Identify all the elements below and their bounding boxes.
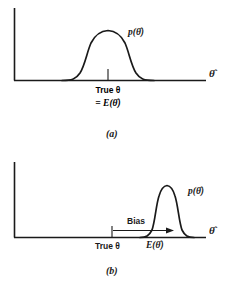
panel-a-density-label: p(θ̂) [128,28,144,38]
panel-b-bias-label: Bias [127,217,145,226]
panel-a-true-theta-label: True θ [78,85,138,95]
panel-b-x-axis-label: θ̂ [209,225,215,236]
panel-a-caption: (a) [106,128,118,139]
panel-b-caption: (b) [106,265,118,276]
estimator-bias-figure: p(θ̂) θ̂ True θ = E(θ̂) (a) p(θ̂) [0,0,229,286]
panel-a-unbiased-estimator: p(θ̂) θ̂ True θ = E(θ̂) (a) [0,0,229,143]
panel-a-plot [0,0,229,143]
panel-a-tick-labels: True θ = E(θ̂) [78,85,138,108]
panel-b-biased-estimator: p(θ̂) Bias θ̂ True θ E(θ̂) (b) [0,143,229,286]
panel-b-expectation-label: E(θ̂) [146,241,164,251]
panel-b-true-theta-label: True θ [95,242,120,251]
panel-b-density-label: p(θ̂) [188,187,204,197]
panel-a-x-axis-label: θ̂ [209,68,215,79]
panel-a-expectation-label: = E(θ̂) [78,98,138,108]
panel-b-bias-arrow-head [166,228,174,234]
